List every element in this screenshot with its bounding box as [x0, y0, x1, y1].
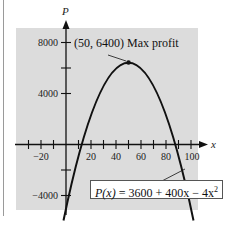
x-tick-label-100: 100	[185, 151, 200, 162]
y-tick-label-8000: 8000	[38, 37, 58, 48]
formula-box: P(x) = 3600 + 400x − 4x2	[90, 180, 223, 199]
formula-exponent: 2	[214, 185, 218, 194]
y-axis-label: P	[61, 5, 69, 17]
x-tick-label-60: 60	[136, 151, 146, 162]
y-axis-arrow-icon	[63, 20, 70, 29]
x-axis-label: x	[210, 138, 216, 150]
y-tick-label-neg4000: −4000	[32, 190, 58, 201]
max-annotation-leader	[108, 55, 126, 61]
formula-lhs: P(x)	[95, 186, 116, 200]
x-axis-arrow-icon	[199, 141, 208, 148]
x-tick-label-40: 40	[111, 151, 121, 162]
x-tick-label-neg20: −20	[33, 151, 49, 162]
formula-rhs: = 3600 + 400x − 4x	[116, 186, 214, 200]
max-profit-annotation: (50, 6400) Max profit	[74, 36, 179, 51]
x-tick-label-80: 80	[161, 151, 171, 162]
x-tick-label-20: 20	[86, 151, 96, 162]
max-point-marker	[126, 60, 131, 65]
y-tick-label-4000: 4000	[38, 88, 58, 99]
